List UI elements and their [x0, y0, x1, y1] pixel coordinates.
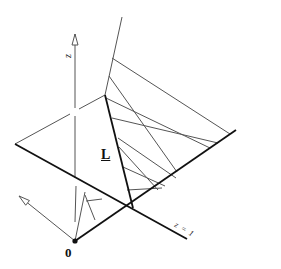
- z-axis-label: z: [63, 54, 73, 58]
- plane-left-edge-a: [15, 114, 70, 144]
- inner-line-1: [75, 192, 85, 241]
- origin-point-icon: [72, 238, 77, 243]
- geometry-figure: [0, 0, 281, 269]
- baseline-right: [75, 130, 236, 241]
- diagram-canvas: z L 0 z = 1: [0, 0, 281, 269]
- fan-line-5: [119, 147, 158, 190]
- plane-left-edge-b: [79, 95, 105, 109]
- origin-label: 0: [65, 246, 72, 259]
- z-axis-arrow-icon: [72, 34, 78, 45]
- fan-line-3: [112, 118, 218, 143]
- fan-line-1: [109, 76, 177, 172]
- upper-edge: [105, 17, 122, 95]
- line-L-label: L: [101, 148, 110, 162]
- inner-line-0: [75, 186, 76, 222]
- inner-line-2: [85, 195, 95, 220]
- inner-line-3: [86, 199, 102, 201]
- x-axis-arrow-icon: [19, 196, 29, 205]
- markers: [19, 34, 78, 244]
